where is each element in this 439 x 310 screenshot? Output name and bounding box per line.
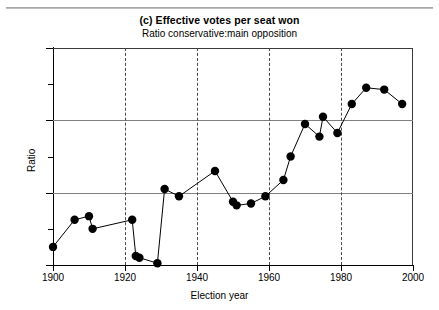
chart-title: (c) Effective votes per seat won [0,14,439,26]
data-point-1951 [232,201,240,209]
data-point-1983 [348,100,356,108]
data-point-1931 [160,185,168,193]
series-polyline [53,88,402,263]
x-tick-label-1980: 1980 [321,273,361,283]
data-point-1964 [279,176,287,184]
chart-subtitle: Ratio conservative:main opposition [0,28,439,39]
data-point-1922 [128,216,136,224]
data-point-1911 [88,225,96,233]
y-tick-0.8 [46,265,53,266]
x-tick-label-1920: 1920 [105,273,145,283]
chart-figure: (c) Effective votes per seat won Ratio c… [0,0,439,310]
data-point-1924 [135,254,143,262]
data-point-1945 [211,167,219,175]
data-point-1974 [315,132,323,140]
data-point-1900 [49,243,57,251]
x-tick-1960 [269,265,270,271]
data-series-line [53,48,413,265]
x-tick-label-1900: 1900 [33,273,73,283]
data-point-1975 [319,113,327,121]
data-point-1987 [362,84,370,92]
data-point-1997 [398,100,406,108]
x-tick-label-2000: 2000 [393,273,433,283]
x-axis-title: Election year [0,290,439,301]
data-point-1979 [333,129,341,137]
data-point-1955 [247,199,255,207]
data-point-1992 [380,85,388,93]
top-divider-rule [6,7,433,9]
y-tick-1 [46,193,53,194]
data-point-1970 [301,120,309,128]
y-axis-title: Ratio [26,149,37,172]
data-point-1910 [85,212,93,220]
x-tick-1900 [53,265,54,271]
x-tick-1980 [341,265,342,271]
data-point-1959 [261,192,269,200]
x-tick-1920 [125,265,126,271]
x-tick-1940 [197,265,198,271]
data-point-1906 [70,216,78,224]
x-tick-label-1960: 1960 [249,273,289,283]
x-tick-2000 [413,265,414,271]
data-point-1935 [175,192,183,200]
y-tick-1.4 [46,48,53,49]
y-tick-1.2 [46,120,53,121]
plot-area: 1.41.21.0.8 190019201940196019802000 [53,48,413,265]
x-axis-line [52,265,413,266]
x-tick-label-1940: 1940 [177,273,217,283]
data-point-1929 [153,259,161,267]
data-point-1966 [286,152,294,160]
